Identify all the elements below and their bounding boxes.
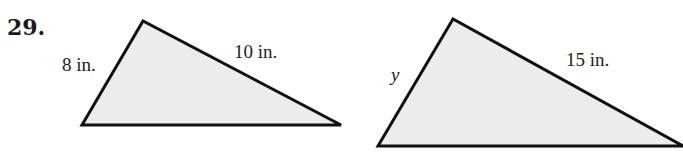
triangle-2-right-side-label: 15 in. (566, 49, 609, 71)
triangle-1 (82, 21, 341, 125)
triangle-1-right-side-label: 10 in. (234, 41, 277, 63)
triangle-2-left-side-label: y (391, 64, 399, 86)
triangle-2 (378, 19, 683, 146)
triangle-1-left-side-label: 8 in. (62, 54, 96, 76)
figures-canvas (0, 0, 683, 156)
